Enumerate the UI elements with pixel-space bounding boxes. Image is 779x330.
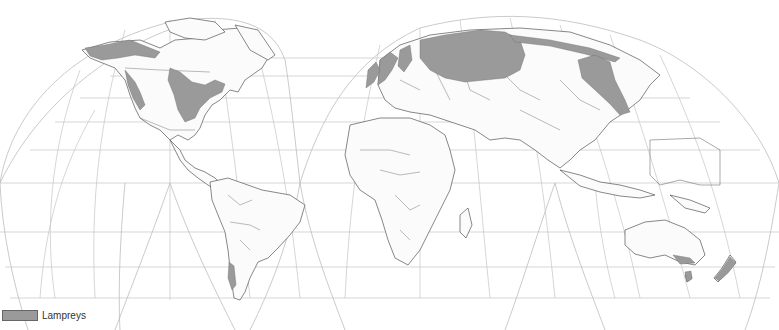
southeast-asia xyxy=(560,170,710,213)
madagascar xyxy=(460,208,472,238)
australia xyxy=(625,220,705,282)
south-america xyxy=(210,178,305,300)
map-legend: Lampreys xyxy=(2,310,86,321)
africa xyxy=(345,118,472,265)
legend-label-lampreys: Lampreys xyxy=(42,310,86,321)
pacific-boundary xyxy=(650,138,720,185)
world-map xyxy=(0,0,779,330)
legend-swatch-lampreys xyxy=(2,310,38,321)
